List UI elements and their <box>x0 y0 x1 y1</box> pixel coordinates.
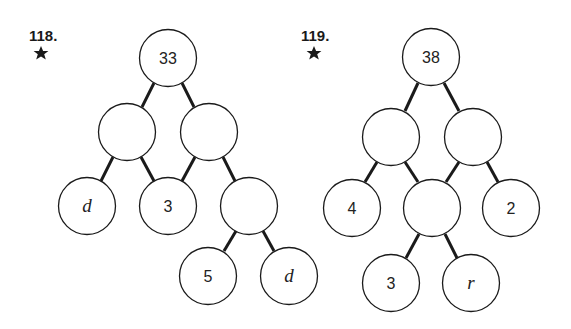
node-label: d <box>82 195 92 216</box>
problem-119: 119. 38 4 2 3 r <box>301 27 540 312</box>
node-f: 2 <box>483 180 540 237</box>
problem-number: 118. <box>29 27 57 44</box>
node-e <box>404 180 461 237</box>
node-c <box>445 109 502 166</box>
node-e: 3 <box>140 178 197 235</box>
node-label: 2 <box>507 200 516 217</box>
edge <box>487 162 498 182</box>
node-circle <box>221 178 278 235</box>
edge <box>445 234 457 258</box>
node-d: 4 <box>324 180 381 237</box>
node-circle <box>181 104 238 161</box>
node-label: d <box>284 265 294 286</box>
node-circle <box>445 109 502 166</box>
node-label: 38 <box>422 49 440 66</box>
node-circle <box>99 104 156 161</box>
node-a: 33 <box>140 30 197 87</box>
node-label: r <box>467 272 475 293</box>
node-label: 4 <box>348 200 357 217</box>
star-icon <box>34 46 49 60</box>
pyramid-diagrams: 118. 33 d 3 5 d 119. <box>0 0 571 329</box>
problem-118: 118. 33 d 3 5 d <box>29 27 318 305</box>
edge <box>406 234 419 258</box>
edge <box>263 231 274 251</box>
edge <box>224 231 236 251</box>
node-h: d <box>261 248 318 305</box>
edge <box>141 157 154 181</box>
node-h: r <box>443 255 500 312</box>
edge <box>444 83 459 111</box>
edge <box>446 162 459 182</box>
edge <box>142 83 154 107</box>
node-label: 5 <box>204 268 213 285</box>
edge <box>101 157 113 181</box>
node-b <box>363 109 420 166</box>
star-icon <box>307 46 322 60</box>
node-label: 3 <box>164 198 173 215</box>
node-f <box>221 178 278 235</box>
edge <box>365 162 377 182</box>
node-label: 33 <box>159 50 177 67</box>
edge <box>405 83 418 111</box>
node-b <box>99 104 156 161</box>
node-g: 3 <box>363 255 420 312</box>
edge <box>223 157 235 181</box>
edge <box>182 157 195 181</box>
edge <box>182 83 194 107</box>
node-a: 38 <box>403 29 460 86</box>
node-d: d <box>59 178 116 235</box>
edge <box>405 162 418 182</box>
node-c <box>181 104 238 161</box>
node-label: 3 <box>387 275 396 292</box>
node-circle <box>404 180 461 237</box>
node-circle <box>363 109 420 166</box>
node-g: 5 <box>180 248 237 305</box>
problem-number: 119. <box>301 27 329 44</box>
